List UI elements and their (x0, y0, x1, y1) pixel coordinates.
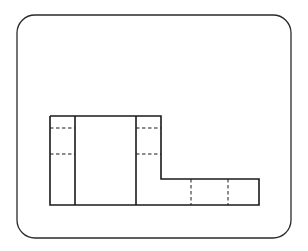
orthographic-drawing (0, 0, 308, 251)
visible-edge-lines (75, 116, 136, 205)
hidden-edge-lines (50, 128, 228, 205)
diagram-canvas (0, 0, 308, 251)
